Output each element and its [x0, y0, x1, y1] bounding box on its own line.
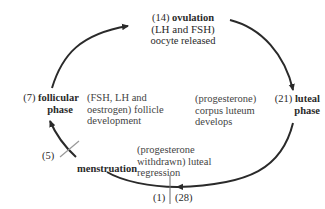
- luteal-hormones: (progesterone): [195, 93, 256, 105]
- menstruation-description: regression: [137, 167, 211, 179]
- follicular-hormones-line1: (FSH, LH and: [87, 92, 164, 104]
- follicular-hormones-line2: oestrogen) follicle: [87, 104, 164, 116]
- menstruation-name: menstruation: [77, 163, 137, 174]
- follicular-name-line2: phase: [47, 104, 73, 115]
- marker-day-5: (5): [42, 150, 54, 162]
- stage-follicular: (7) follicular phase: [20, 92, 82, 115]
- marker-day-28: (28): [175, 192, 193, 204]
- menstruation-hormones-line2: withdrawn) luteal: [137, 156, 211, 168]
- luteal-name: luteal: [295, 93, 320, 104]
- arc-ovulation-to-luteal: [230, 20, 293, 90]
- follicular-notes: (FSH, LH and oestrogen) follicle develop…: [87, 92, 164, 127]
- ovulation-name: ovulation: [172, 12, 214, 23]
- luteal-day: (21): [275, 93, 293, 104]
- ovulation-description: oocyte released: [133, 35, 233, 47]
- ovulation-hormones: (LH and FSH): [133, 24, 233, 36]
- stage-luteal: (21) luteal phase: [262, 93, 320, 116]
- menstruation-hormones-line1: (progesterone: [137, 144, 211, 156]
- marker-day-1: (1): [153, 192, 165, 204]
- follicular-day: (7): [23, 92, 35, 103]
- luteal-description-line1: corpus luteum: [195, 105, 256, 117]
- stage-menstruation: menstruation: [77, 163, 137, 175]
- luteal-description-line2: develops: [195, 116, 256, 128]
- luteal-name-line2: phase: [294, 105, 320, 116]
- stage-ovulation: (14) ovulation (LH and FSH) oocyte relea…: [133, 12, 233, 47]
- follicular-description: development: [87, 115, 164, 127]
- ovulation-day: (14): [152, 12, 170, 23]
- luteal-notes: (progesterone) corpus luteum develops: [195, 93, 256, 128]
- arc-follicular-to-ovulation: [52, 26, 128, 88]
- menstruation-notes: (progesterone withdrawn) luteal regressi…: [137, 144, 211, 179]
- follicular-name: follicular: [38, 92, 79, 103]
